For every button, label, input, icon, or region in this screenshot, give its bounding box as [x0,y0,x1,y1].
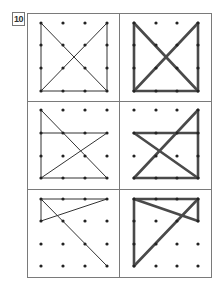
grid-dot [39,108,42,111]
grid-dot [39,219,42,222]
grid-dot [154,219,157,222]
grid-dot [196,197,199,200]
grid-dot [196,66,199,69]
grid-dot [61,43,64,46]
grid-dot [196,242,199,245]
grid-dot [154,242,157,245]
grid-dot [39,131,42,134]
grid-dot [132,131,135,134]
grid-dot [196,219,199,222]
grid-dot [83,108,86,111]
grid-dot [61,176,64,179]
grid-dot [105,89,108,92]
grid-dot [132,242,135,245]
grid-dot [196,176,199,179]
grid-dot [105,21,108,24]
figure-row2-left [39,108,108,179]
line-segment [41,199,107,266]
grid-dot [175,66,178,69]
grid-dot [39,43,42,46]
line-segment [41,133,107,178]
grid-dot [154,176,157,179]
grid-dot [39,66,42,69]
grid-dot [105,131,108,134]
grid-dot [61,21,64,24]
grid-dot [39,89,42,92]
line-segment [134,133,198,178]
grid-dot [83,242,86,245]
grid-dot [132,176,135,179]
grid-dot [61,197,64,200]
grid-dot [175,219,178,222]
grid-dot [154,21,157,24]
grid-dot [105,242,108,245]
grid-dot [39,21,42,24]
grid-dot [83,219,86,222]
grid-dot [175,43,178,46]
grid-dot [83,197,86,200]
grid-dot [61,242,64,245]
grid-dot [105,197,108,200]
grid-dot [105,43,108,46]
grid-dot [105,108,108,111]
grid-dot [39,197,42,200]
grid-dot [132,219,135,222]
grid-dot [175,154,178,157]
grid-dot [61,264,64,267]
grid-dot [132,43,135,46]
grid-dot [196,131,199,134]
grid-dot [61,154,64,157]
grid-dot [175,89,178,92]
grid-dot [39,242,42,245]
grid-dot [132,21,135,24]
grid-dot [196,108,199,111]
grid-dot [61,89,64,92]
grid-dot [132,197,135,200]
grid-dot [61,131,64,134]
grid-dot [83,66,86,69]
figure-row1-left [39,21,108,92]
grid-dot [105,264,108,267]
line-segment [41,199,107,221]
grid-dot [61,219,64,222]
grid-dot [105,66,108,69]
grid-dot [196,43,199,46]
grid-dot [61,66,64,69]
grid-dot [83,89,86,92]
grid-dot [175,264,178,267]
figure-row2-right [132,108,199,179]
grid-dot [39,176,42,179]
grid-dot [83,131,86,134]
grid-dot [61,108,64,111]
grid-dot [196,21,199,24]
grid-dot [83,154,86,157]
dot-grid-exercise [0,0,222,288]
figure-row3-left [39,197,108,267]
grid-dot [39,264,42,267]
grid-dot [154,197,157,200]
grid-dot [154,264,157,267]
grid-dot [175,197,178,200]
grid-dot [83,264,86,267]
grid-dot [175,242,178,245]
grid-dot [132,89,135,92]
grid-dot [132,264,135,267]
grid-dot [175,21,178,24]
grid-dot [196,264,199,267]
grid-dot [132,108,135,111]
grid-dot [154,66,157,69]
grid-dot [154,154,157,157]
grid-dot [175,108,178,111]
grid-dot [196,89,199,92]
line-segment [134,110,198,178]
grid-dot [132,66,135,69]
grid-dot [154,89,157,92]
grid-dot [39,154,42,157]
grid-dot [196,154,199,157]
grid-dot [83,43,86,46]
figure-row1-right [132,21,199,92]
grid-dot [83,176,86,179]
grid-dot [175,131,178,134]
grid-dot [83,21,86,24]
grid-dot [175,176,178,179]
